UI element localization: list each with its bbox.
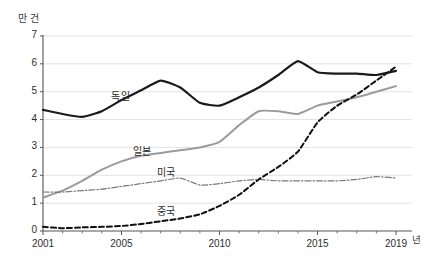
y-tick-label: 7 bbox=[21, 29, 37, 40]
line-chart-figure: 만 건 년 01234567 20012005201020152019 독일일본… bbox=[0, 0, 434, 261]
y-tick-label: 0 bbox=[21, 224, 37, 235]
y-tick-label: 4 bbox=[21, 113, 37, 124]
series-line-0 bbox=[43, 61, 396, 117]
y-tick-label: 5 bbox=[21, 85, 37, 96]
x-tick-label: 2005 bbox=[101, 238, 141, 249]
y-tick-label: 6 bbox=[21, 57, 37, 68]
x-tick-label: 2010 bbox=[200, 238, 240, 249]
y-tick-label: 3 bbox=[21, 140, 37, 151]
series-label-1: 일본 bbox=[133, 143, 151, 158]
axis-ticks bbox=[40, 36, 396, 235]
y-tick-label: 2 bbox=[21, 168, 37, 179]
series-label-2: 미국 bbox=[157, 164, 175, 179]
chart-plot-area bbox=[0, 0, 434, 261]
y-tick-label: 1 bbox=[21, 196, 37, 207]
series-label-0: 독일 bbox=[111, 88, 129, 103]
grid-lines bbox=[43, 36, 412, 203]
x-tick-label: 2015 bbox=[298, 238, 338, 249]
series-label-3: 중국 bbox=[157, 203, 175, 218]
x-tick-label: 2019 bbox=[376, 238, 416, 249]
x-tick-label: 2001 bbox=[23, 238, 63, 249]
series-line-2 bbox=[43, 177, 396, 192]
